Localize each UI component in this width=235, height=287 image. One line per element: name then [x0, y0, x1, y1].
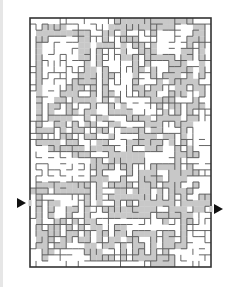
exit-arrow-icon: [214, 204, 223, 214]
entrance-arrow-icon: [17, 198, 26, 208]
maze: [0, 0, 235, 287]
